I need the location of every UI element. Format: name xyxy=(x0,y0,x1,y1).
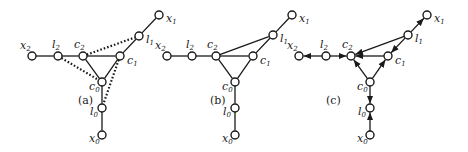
caption-panel-b: (b) xyxy=(210,94,226,107)
node-c0 xyxy=(231,78,239,86)
edge-l1-x1 xyxy=(142,18,156,33)
node-l1 xyxy=(404,31,412,39)
label-c1: c1 xyxy=(395,54,406,68)
node-l1 xyxy=(135,32,143,40)
label-l2: l2 xyxy=(186,38,195,52)
edge-l1-x1 xyxy=(276,18,289,32)
figure-svg: x2l2c2c1c0l0l1x1x0(a) x2l2c2c1c0l0l1x1x0… xyxy=(0,0,468,152)
node-x1 xyxy=(423,11,431,19)
label-c2: c2 xyxy=(74,38,85,52)
node-x2 xyxy=(163,52,171,60)
panel-b: x2l2c2c1c0l0l1x1x0(b) xyxy=(155,11,310,146)
label-x1: x1 xyxy=(299,12,310,26)
edge-c2-c0 xyxy=(218,59,232,78)
node-x2 xyxy=(295,52,303,60)
label-l2: l2 xyxy=(320,38,329,52)
node-l2 xyxy=(322,52,330,60)
edge-c1-c0 xyxy=(105,59,118,78)
node-c2 xyxy=(347,52,355,60)
panel-a: x2l2c2c1c0l0l1x1x0(a) xyxy=(20,11,177,146)
label-l1: l1 xyxy=(146,33,154,47)
arrow-c0-to-c2 xyxy=(354,60,368,79)
label-l2: l2 xyxy=(52,38,61,52)
node-c2 xyxy=(212,52,220,60)
node-c0 xyxy=(366,78,374,86)
label-c1: c1 xyxy=(260,54,271,68)
panel-c: x2l2c2c1c0l0l1x1x0(c) xyxy=(287,11,445,146)
node-x1 xyxy=(155,11,163,19)
graph-figure: x2l2c2c1c0l0l1x1x0(a) x2l2c2c1c0l0l1x1x0… xyxy=(0,0,468,152)
node-c1 xyxy=(249,52,257,60)
node-l1 xyxy=(269,31,277,39)
node-c1 xyxy=(116,52,124,60)
edge-c1-c0 xyxy=(238,59,251,78)
label-x2: x2 xyxy=(287,39,298,53)
dotted-edge-c2-l1 xyxy=(87,38,135,55)
label-x2: x2 xyxy=(155,39,166,53)
arrow-l1-to-x1 xyxy=(411,18,424,32)
label-c2: c2 xyxy=(342,38,353,52)
edge-c2-c0 xyxy=(85,59,99,78)
arrow-l1-to-c2 xyxy=(355,36,404,54)
label-c1: c1 xyxy=(127,54,138,68)
caption-panel-c: (c) xyxy=(326,94,341,107)
node-l0 xyxy=(98,104,106,112)
label-x1: x1 xyxy=(166,12,177,26)
label-x2: x2 xyxy=(20,39,31,53)
label-c2: c2 xyxy=(207,38,218,52)
node-x2 xyxy=(28,52,36,60)
label-l0: l0 xyxy=(90,105,99,119)
arrow-c0-to-c1 xyxy=(372,60,385,79)
node-l0 xyxy=(231,104,239,112)
caption-panel-a: (a) xyxy=(78,94,93,107)
node-l0 xyxy=(366,104,374,112)
label-x1: x1 xyxy=(434,12,445,26)
edge-c2-l1 xyxy=(220,37,269,55)
label-l1: l1 xyxy=(415,32,423,46)
node-c0 xyxy=(98,78,106,86)
label-l0: l0 xyxy=(358,105,367,119)
label-l0: l0 xyxy=(223,105,232,119)
node-c2 xyxy=(79,52,87,60)
node-x1 xyxy=(288,11,296,19)
node-c1 xyxy=(384,52,392,60)
node-l2 xyxy=(54,52,62,60)
node-l2 xyxy=(188,52,196,60)
